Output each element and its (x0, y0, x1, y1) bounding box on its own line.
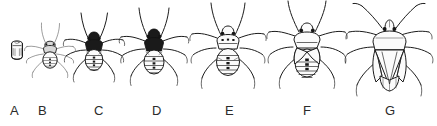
stage-label-d: D (152, 104, 162, 117)
abdomen-spots-f (305, 59, 309, 71)
abdomen-spots-b (49, 59, 51, 66)
nymph-e-drawing (188, 2, 268, 94)
thorax-f (294, 32, 320, 48)
eye-right-b (53, 43, 55, 45)
thorax-e (217, 35, 239, 50)
abdomen-spots-c (93, 57, 95, 67)
stink-bug-life-cycle-figure: A B C D E F G (0, 0, 437, 126)
stage-label-g: G (385, 104, 396, 117)
eye-right-g (392, 27, 396, 31)
abdomen-spots-e (226, 57, 229, 69)
thorax-d (145, 38, 164, 52)
abdomen-d (144, 50, 164, 74)
pronotum-g (373, 31, 406, 50)
eye-left-b (45, 43, 47, 45)
stage-label-f: F (303, 104, 311, 117)
nymph-d-drawing (118, 6, 190, 90)
abdomen-spots-d (153, 58, 156, 69)
adult-drawing (342, 0, 437, 102)
stage-label-c: C (94, 104, 104, 117)
stage-label-b: B (38, 104, 47, 117)
eye-left-g (383, 27, 387, 31)
nymph-f-drawing (264, 0, 350, 94)
stage-f-nymph (264, 0, 350, 94)
stage-d-nymph (118, 6, 190, 90)
stage-g-adult (342, 0, 437, 102)
stage-c-nymph (62, 10, 126, 86)
stage-label-e: E (225, 104, 234, 117)
nymph-c-drawing (62, 10, 126, 86)
stage-label-a: A (10, 104, 19, 117)
stage-e-nymph (188, 2, 268, 94)
